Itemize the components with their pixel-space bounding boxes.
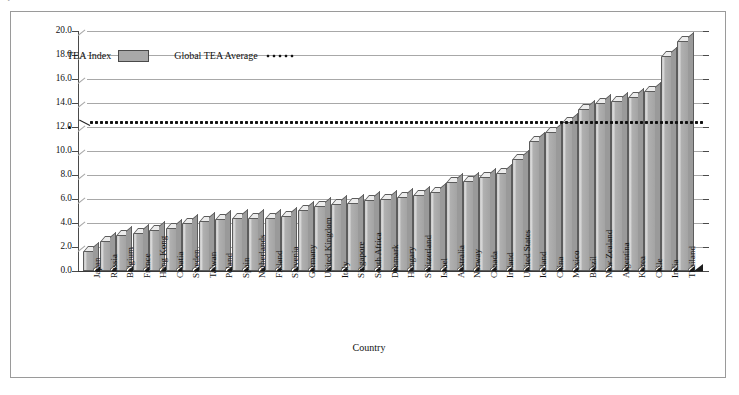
chart-legend: TEA Index Global TEA Average <box>59 44 324 67</box>
x-tick-label: Mexico <box>571 251 581 279</box>
bar-side-face <box>556 123 562 270</box>
y-tick-right <box>703 247 709 248</box>
y-tick-right <box>703 223 709 224</box>
x-tick-label: Israel <box>439 258 449 278</box>
x-tick-label: India <box>670 260 680 279</box>
bar-side-face <box>539 132 545 270</box>
y-tick-right <box>703 79 709 80</box>
x-tick-label: Japan <box>92 258 102 279</box>
y-tick-label: 2.0 <box>32 242 72 251</box>
y-tick-right <box>703 103 709 104</box>
y-tick-label: 10.0 <box>32 146 72 155</box>
x-tick-label: France <box>142 254 152 279</box>
y-tick <box>72 31 78 32</box>
y-tick <box>72 223 78 224</box>
x-tick-label: Taiwan <box>208 252 218 278</box>
x-tick-label: Italy <box>340 262 350 279</box>
y-tick-right <box>703 199 709 200</box>
legend-bar-label: TEA Index <box>67 50 111 61</box>
bar-side-face <box>589 100 595 270</box>
y-axis-title: Total Entrepreneurial Activity (TEA) Ind… <box>7 0 21 30</box>
y-tick-label: 0.0 <box>32 266 72 275</box>
x-tick-label: Denmark <box>390 245 400 279</box>
x-tick-label: Switzerland <box>423 235 433 278</box>
x-tick-label: Hungary <box>406 247 416 279</box>
x-tick-label: China <box>555 257 565 279</box>
bar <box>562 122 573 271</box>
x-tick-label: Russia <box>109 254 119 278</box>
x-tick-label: Slovenia <box>290 247 300 279</box>
y-tick <box>72 247 78 248</box>
x-tick-label: Germany <box>307 245 317 279</box>
x-tick-label: Brazil <box>588 256 598 278</box>
y-tick-label: 6.0 <box>32 194 72 203</box>
legend-line-label: Global TEA Average <box>174 50 258 61</box>
gridline <box>87 79 703 80</box>
y-tick <box>72 127 78 128</box>
y-tick-right <box>703 55 709 56</box>
y-tick-right <box>703 31 709 32</box>
x-tick-label: Singapore <box>356 242 366 279</box>
x-tick-label: Spain <box>241 257 251 278</box>
x-tick-label: Netherlands <box>257 235 267 278</box>
y-tick <box>72 103 78 104</box>
bar-side-face <box>688 32 694 270</box>
bar <box>661 56 672 271</box>
x-tick-label: Chile <box>654 259 664 279</box>
y-tick <box>72 79 78 80</box>
x-tick-label: Canada <box>489 251 499 278</box>
x-tick-label: Poland <box>224 253 234 278</box>
y-tick-label: 20.0 <box>32 26 72 35</box>
x-tick-label: United States <box>522 230 532 278</box>
y-tick-right <box>703 271 709 272</box>
x-tick-label: Croatia <box>175 252 185 279</box>
x-tick-label: Finland <box>274 250 284 278</box>
y-tick-label: 8.0 <box>32 170 72 179</box>
y-tick <box>72 271 78 272</box>
bar <box>644 91 655 271</box>
bar <box>578 109 589 271</box>
legend-line-marker <box>265 54 295 58</box>
y-tick-label: 14.0 <box>32 98 72 107</box>
average-line-dotted <box>89 121 703 124</box>
x-tick-label: United Kingdom <box>323 217 333 278</box>
bar <box>545 132 556 271</box>
bar-side-face <box>671 47 677 270</box>
x-tick-label: Sweden <box>191 250 201 279</box>
y-axis-line <box>78 31 79 271</box>
x-axis-title: Country <box>11 342 727 353</box>
x-tick-label: Argentina <box>621 242 631 278</box>
y-tick-right <box>703 127 709 128</box>
x-tick-label: Australia <box>456 245 466 278</box>
x-tick-label: Hong Kong <box>158 236 168 278</box>
gridline <box>87 31 703 32</box>
x-tick-label: Iceland <box>538 252 548 278</box>
y-tick-right <box>703 175 709 176</box>
y-tick <box>72 151 78 152</box>
bar-side-face <box>572 113 578 270</box>
x-tick-label: Norway <box>472 249 482 278</box>
y-tick-label: 4.0 <box>32 218 72 227</box>
bar-side-face <box>638 88 644 270</box>
x-tick-label: Thailand <box>687 246 697 278</box>
x-tick-label: South Africa <box>373 232 383 278</box>
x-tick-label: Belgium <box>125 247 135 278</box>
chart-frame: Total Entrepreneurial Activity (TEA) Ind… <box>10 11 726 378</box>
bar-side-face <box>440 183 446 270</box>
legend-bar-swatch <box>118 50 149 62</box>
y-tick-label: 12.0 <box>32 122 72 131</box>
x-tick-label: Ireland <box>505 253 515 278</box>
y-tick <box>72 199 78 200</box>
bar <box>677 41 688 271</box>
x-tick-label: New Zealand <box>604 230 614 278</box>
bar-side-face <box>655 82 661 270</box>
y-tick <box>72 175 78 176</box>
y-tick-right <box>703 151 709 152</box>
x-tick-label: Korea <box>637 256 647 278</box>
bar-side-face <box>341 195 347 270</box>
y-tick-label: 16.0 <box>32 74 72 83</box>
